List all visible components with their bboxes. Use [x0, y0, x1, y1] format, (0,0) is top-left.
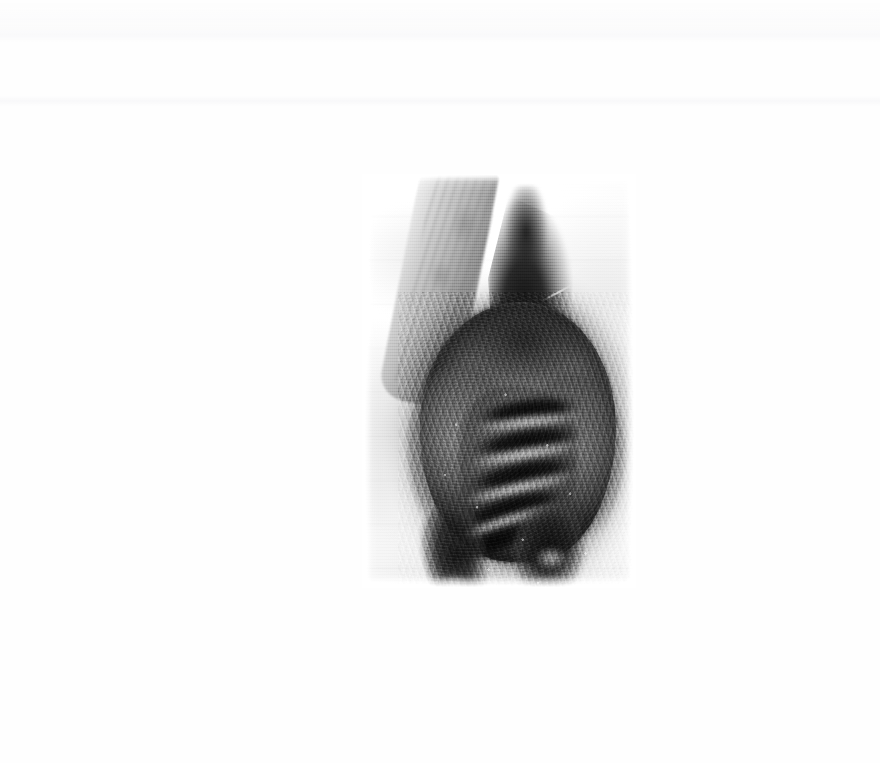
photograph: Black and white photograph of a raccoon … [362, 174, 636, 588]
hind-foot-right-highlight [534, 546, 568, 570]
hollow-core-shadow [504, 186, 548, 278]
page-canvas: Black and white photograph of a raccoon … [0, 0, 880, 763]
